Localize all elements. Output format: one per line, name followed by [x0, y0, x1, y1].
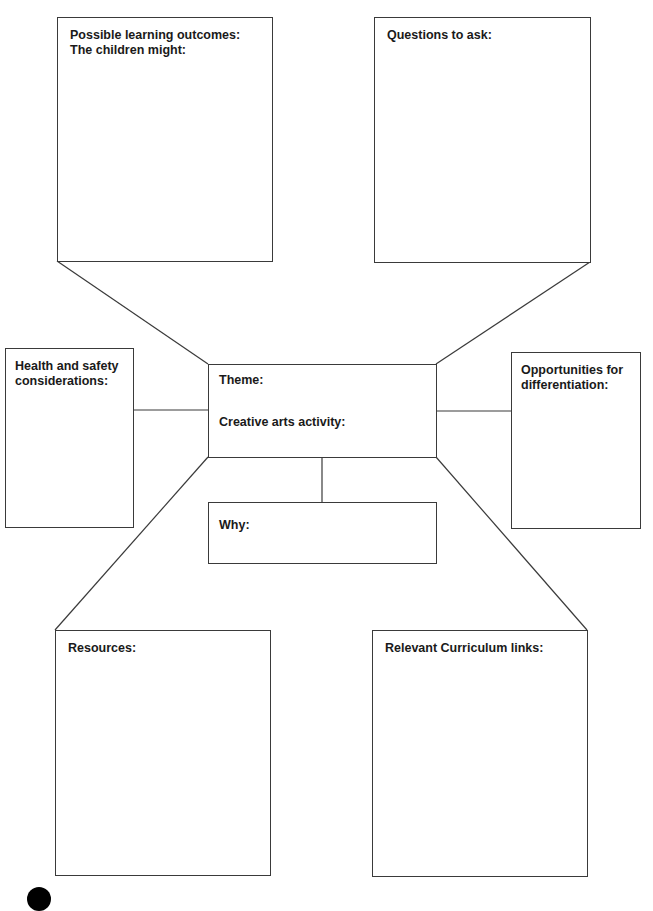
curriculum-links-box[interactable]: Relevant Curriculum links:: [372, 630, 588, 877]
learning-outcomes-box[interactable]: Possible learning outcomes: The children…: [57, 17, 273, 262]
resources-box[interactable]: Resources:: [55, 630, 271, 876]
page-marker-circle-icon: [27, 887, 51, 911]
health-safety-box[interactable]: Health and safety considerations:: [5, 348, 134, 528]
centre-box[interactable]: Theme: Creative arts activity:: [208, 364, 437, 458]
creative-arts-activity-label: Creative arts activity:: [219, 415, 345, 430]
differentiation-box[interactable]: Opportunities for differentiation:: [511, 352, 641, 529]
learning-outcomes-label: Possible learning outcomes: The children…: [70, 28, 260, 58]
health-safety-label: Health and safety considerations:: [15, 359, 124, 389]
why-box[interactable]: Why:: [208, 502, 437, 564]
questions-label: Questions to ask:: [387, 28, 578, 43]
differentiation-label: Opportunities for differentiation:: [521, 363, 631, 393]
curriculum-links-label: Relevant Curriculum links:: [385, 641, 575, 656]
questions-box[interactable]: Questions to ask:: [374, 17, 591, 263]
why-label: Why:: [219, 518, 250, 533]
resources-label: Resources:: [68, 641, 258, 656]
theme-label: Theme:: [219, 373, 263, 388]
connector-questions: [436, 262, 590, 364]
